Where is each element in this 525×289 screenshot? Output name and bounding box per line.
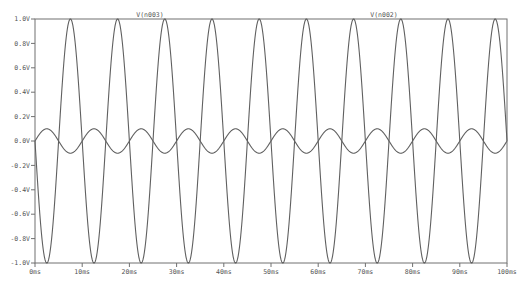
x-tick-label: 30ms [169, 268, 185, 276]
plot-traces [35, 19, 507, 263]
x-tick-label: 100ms [497, 268, 517, 276]
y-tick-label: 0.0V [14, 137, 30, 145]
trace-label[interactable]: V(n002) [370, 11, 397, 19]
x-tick-label: 60ms [310, 268, 326, 276]
y-tick-label: -0.6V [10, 210, 30, 218]
y-tick-label: -0.8V [10, 235, 30, 243]
x-tick-label: 20ms [122, 268, 138, 276]
x-tick-label: 90ms [452, 268, 468, 276]
trace-label[interactable]: V(n003) [136, 11, 163, 19]
y-tick-label: 0.4V [14, 88, 30, 96]
x-tick-label: 50ms [263, 268, 279, 276]
plot-labels: 1.0V0.8V0.6V0.4V0.2V0.0V-0.2V-0.4V-0.6V-… [10, 11, 516, 276]
x-tick-label: 70ms [358, 268, 374, 276]
waveform-plot: 1.0V0.8V0.6V0.4V0.2V0.0V-0.2V-0.4V-0.6V-… [0, 0, 525, 289]
y-tick-label: -1.0V [10, 259, 30, 267]
x-tick-label: 80ms [405, 268, 421, 276]
x-tick-label: 0ms [29, 268, 41, 276]
y-tick-label: -0.2V [10, 162, 30, 170]
y-tick-label: 1.0V [14, 15, 30, 23]
x-tick-label: 10ms [74, 268, 90, 276]
y-tick-label: 0.2V [14, 113, 30, 121]
x-tick-label: 40ms [216, 268, 232, 276]
y-tick-label: 0.6V [14, 64, 30, 72]
y-tick-label: -0.4V [10, 186, 30, 194]
y-tick-label: 0.8V [14, 40, 30, 48]
